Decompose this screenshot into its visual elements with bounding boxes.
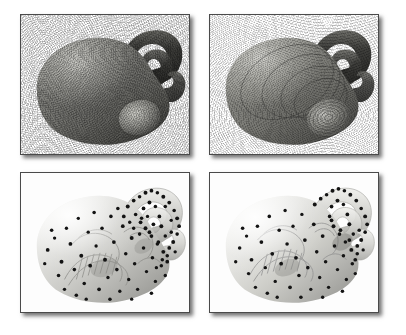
figure-grid <box>0 0 406 335</box>
blob-surface-translucent-left <box>21 173 189 312</box>
blob-surface-translucent-right <box>210 173 378 312</box>
panel-top-right-stage <box>210 15 378 154</box>
panel-top-left <box>20 14 190 155</box>
blob-surface-opaque-stippled <box>21 15 189 154</box>
panel-bottom-left <box>20 172 190 313</box>
panel-bottom-right <box>209 172 379 313</box>
panel-top-left-stage <box>21 15 189 154</box>
panel-top-right <box>209 14 379 155</box>
blob-surface-mesh-contour <box>210 15 378 154</box>
panel-bottom-right-stage <box>210 173 378 312</box>
panel-bottom-left-stage <box>21 173 189 312</box>
